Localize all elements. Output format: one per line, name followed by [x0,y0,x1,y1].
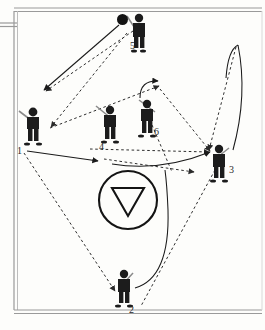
player-label-3: 3 [229,165,234,175]
pass-3-to-2 [141,170,215,306]
ball-icon [117,14,128,25]
run-3-big-loop [233,45,242,150]
pass-1-to-2 [24,153,115,291]
player-label-5: 5 [130,41,135,51]
pass-5-to-1 [46,31,133,91]
pass-4-to-3 [90,149,209,152]
run-3-loop-top [226,45,238,78]
run-1-to-right [27,151,98,161]
play-diagram: 1 2 3 4 5 6 [0,0,265,330]
pass-3-top-diag [209,47,236,150]
player-figure-2 [115,270,133,308]
run-center-to-3 [112,152,210,166]
player-figure-4 [96,106,119,144]
player-figures [19,14,229,308]
player-label-1: 1 [17,146,22,156]
player-figure-3 [210,145,229,183]
pass-lines [24,31,236,306]
pass-6-to-3 [160,89,210,151]
goal-circle [99,171,157,229]
run-lines [27,25,242,288]
run-5-to-left [44,25,119,90]
player-label-2: 2 [129,305,134,315]
player-label-6: 6 [154,127,159,137]
player-label-4: 4 [99,142,104,152]
player-figure-1 [19,108,42,146]
